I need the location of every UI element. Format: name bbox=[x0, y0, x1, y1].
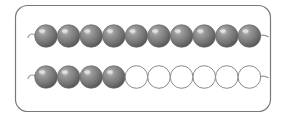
bead-highlight bbox=[84, 29, 90, 33]
bead-filled bbox=[103, 66, 126, 89]
bead-filled bbox=[35, 25, 58, 48]
bead-highlight bbox=[107, 70, 113, 74]
bead-highlight bbox=[62, 70, 68, 74]
bead-empty bbox=[238, 66, 261, 89]
bead-string-diagram bbox=[0, 0, 292, 119]
bead-empty bbox=[148, 66, 171, 89]
bead-empty bbox=[216, 66, 239, 89]
bead-highlight bbox=[175, 29, 181, 33]
bead-highlight bbox=[39, 29, 45, 33]
bead-highlight bbox=[152, 29, 158, 33]
bead-highlight bbox=[107, 29, 113, 33]
bead-filled bbox=[125, 25, 148, 48]
bead-empty bbox=[125, 66, 148, 89]
bead-empty bbox=[193, 66, 216, 89]
bead-highlight bbox=[220, 29, 226, 33]
bead-highlight bbox=[62, 29, 68, 33]
bead-filled bbox=[57, 25, 80, 48]
bead-filled bbox=[103, 25, 126, 48]
bead-filled bbox=[80, 25, 103, 48]
bead-highlight bbox=[84, 70, 90, 74]
bead-empty bbox=[170, 66, 193, 89]
bead-filled bbox=[57, 66, 80, 89]
bead-filled bbox=[148, 25, 171, 48]
bead-filled bbox=[193, 25, 216, 48]
bead-highlight bbox=[242, 29, 248, 33]
bead-filled bbox=[80, 66, 103, 89]
frame bbox=[16, 6, 271, 112]
bead-filled bbox=[216, 25, 239, 48]
bead-filled bbox=[35, 66, 58, 89]
bead-highlight bbox=[197, 29, 203, 33]
bead-filled bbox=[170, 25, 193, 48]
bead-highlight bbox=[39, 70, 45, 74]
bead-diagram bbox=[0, 0, 292, 119]
bead-filled bbox=[238, 25, 261, 48]
bead-highlight bbox=[129, 29, 135, 33]
